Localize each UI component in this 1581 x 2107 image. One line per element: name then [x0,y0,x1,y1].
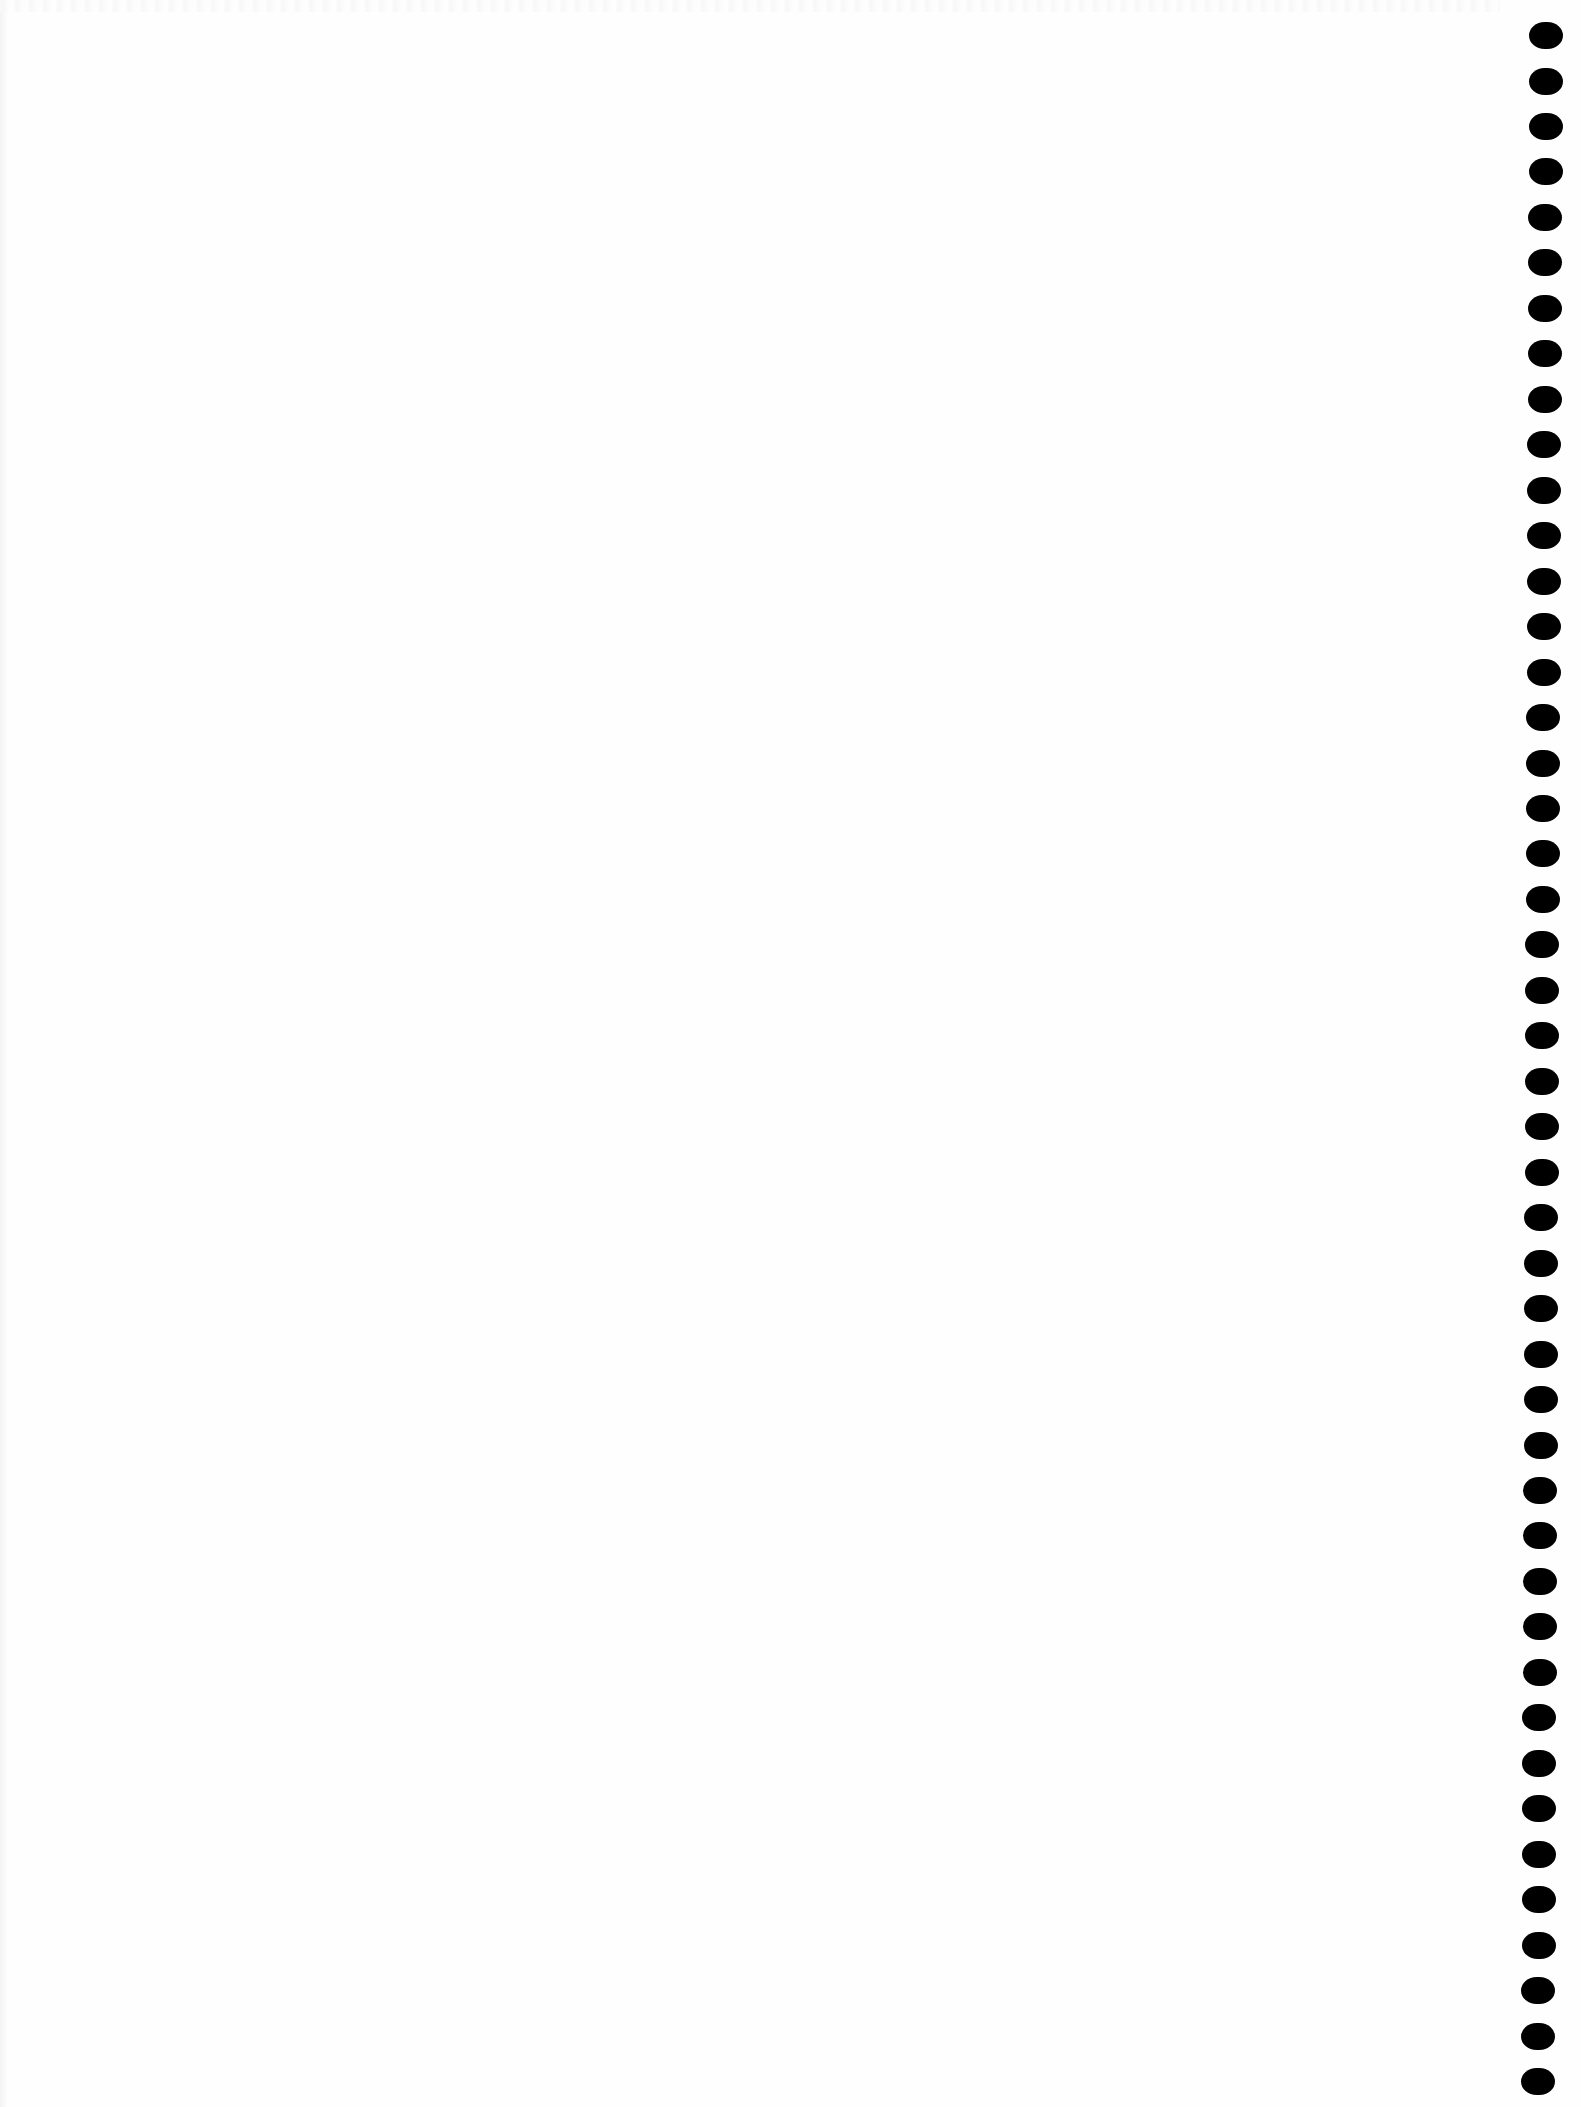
binding-hole [1526,840,1560,867]
binding-hole [1523,1613,1557,1640]
blank-notebook-page [0,0,1581,2107]
binding-hole [1527,568,1561,595]
binding-hole [1524,1432,1558,1459]
binding-hole [1523,1659,1557,1686]
binding-hole [1527,659,1561,686]
binding-hole [1528,340,1562,367]
binding-hole [1527,613,1561,640]
binding-hole [1523,1477,1557,1504]
binding-hole [1522,1704,1556,1731]
binding-hole [1522,1932,1556,1959]
binding-hole [1525,1068,1559,1095]
binding-hole [1524,1250,1558,1277]
binding-hole [1526,795,1560,822]
binding-hole [1524,1386,1558,1413]
binding-hole [1521,1977,1555,2004]
binding-hole [1529,22,1563,49]
binding-hole [1524,1204,1558,1231]
binding-hole [1522,1886,1556,1913]
binding-hole [1525,931,1559,958]
binding-hole [1529,113,1563,140]
binding-hole [1524,1341,1558,1368]
binding-hole [1526,750,1560,777]
binding-hole [1522,1795,1556,1822]
binding-hole [1523,1522,1557,1549]
binding-hole [1525,977,1559,1004]
binding-hole [1525,1113,1559,1140]
binding-hole [1521,2023,1555,2050]
binding-hole [1528,204,1562,231]
binding-hole [1523,1568,1557,1595]
binding-hole [1526,886,1560,913]
binding-hole [1526,704,1560,731]
binding-hole [1528,386,1562,413]
binding-hole [1528,249,1562,276]
binding-hole [1524,1295,1558,1322]
binding-hole [1527,522,1561,549]
binding-hole [1529,68,1563,95]
binding-hole [1521,2068,1555,2095]
binding-hole [1525,1022,1559,1049]
binding-hole [1527,431,1561,458]
binding-holes [0,0,1581,2107]
binding-hole [1522,1841,1556,1868]
binding-hole [1529,158,1563,185]
binding-hole [1525,1159,1559,1186]
binding-hole [1528,295,1562,322]
binding-hole [1522,1750,1556,1777]
binding-hole [1527,477,1561,504]
